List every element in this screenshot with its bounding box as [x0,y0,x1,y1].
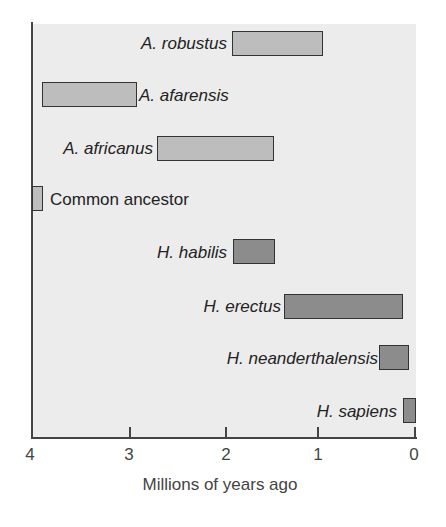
range-bar-a-afarensis [42,82,137,107]
x-tick-0 [414,427,416,438]
x-tick-1 [317,427,319,438]
range-bar-a-robustus [232,31,323,56]
x-tick-label: 2 [221,445,230,465]
species-label: A. robustus [141,31,227,56]
range-bar-h-sapiens [403,398,416,423]
x-tick-3 [129,427,131,438]
x-tick-label: 0 [409,445,418,465]
species-timeline-chart: 4 3 2 1 0 Millions of years ago A. robus… [0,0,446,527]
range-bar-a-africanus [157,136,274,161]
species-label: H. neanderthalensis [227,346,378,371]
x-tick-label: 3 [124,445,133,465]
species-label: H. erectus [204,294,281,319]
range-bar-h-neanderthalensis [379,345,409,370]
species-label: H. sapiens [317,399,397,424]
species-label: A. africanus [63,136,153,161]
species-label: A. afarensis [139,83,229,108]
y-axis-line [31,22,33,439]
range-bar-h-erectus [284,294,403,319]
range-bar-h-habilis [233,239,275,264]
species-label: Common ancestor [50,187,189,212]
species-label: H. habilis [157,240,227,265]
x-axis-line [31,437,417,439]
x-tick-label: 4 [25,445,34,465]
x-tick-label: 1 [313,445,322,465]
range-bar-common-ancestor [32,186,43,211]
x-tick-2 [225,427,227,438]
x-axis-title: Millions of years ago [140,475,300,495]
